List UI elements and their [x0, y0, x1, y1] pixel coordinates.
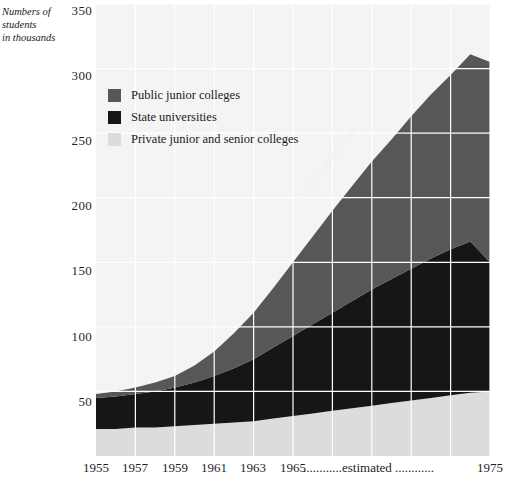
legend-swatch-private-colleges — [108, 133, 121, 146]
x-tick-1959: 1959 — [162, 460, 188, 476]
legend-label-private-colleges: Private junior and senior colleges — [131, 132, 298, 147]
legend: Public junior colleges State universitie… — [108, 86, 298, 152]
y-tick-150: 150 — [52, 263, 92, 279]
y-tick-350: 350 — [52, 3, 92, 19]
y-axis-ticks: 350 300 250 200 150 100 50 — [50, 0, 92, 489]
y-tick-100: 100 — [52, 329, 92, 345]
legend-item-public-junior-colleges: Public junior colleges — [108, 86, 298, 104]
y-tick-200: 200 — [52, 198, 92, 214]
x-tick-1963: 1963 — [240, 460, 266, 476]
x-tick-1957: 1957 — [122, 460, 148, 476]
chart-root: Numbers of students in thousands 350 300… — [0, 0, 508, 489]
x-tick-1955: 1955 — [83, 460, 109, 476]
y-tick-250: 250 — [52, 133, 92, 149]
stacked-area-svg — [96, 4, 490, 456]
y-tick-50: 50 — [52, 394, 92, 410]
estimated-note: ............estimated ............ — [303, 460, 434, 476]
legend-item-state-universities: State universities — [108, 108, 298, 126]
legend-label-state-universities: State universities — [131, 110, 217, 125]
x-tick-1975: 1975 — [477, 460, 503, 476]
x-tick-1961: 1961 — [201, 460, 227, 476]
legend-item-private-colleges: Private junior and senior colleges — [108, 130, 298, 148]
plot-area — [96, 4, 490, 456]
legend-swatch-public-junior-colleges — [108, 89, 121, 102]
legend-swatch-state-universities — [108, 111, 121, 124]
y-tick-300: 300 — [52, 68, 92, 84]
legend-label-public-junior-colleges: Public junior colleges — [131, 88, 240, 103]
x-axis-ticks: 1955 1957 1959 1961 1963 1965 ..........… — [0, 460, 508, 486]
